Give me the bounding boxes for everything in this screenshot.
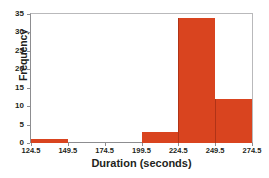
histogram-bar bbox=[178, 18, 215, 143]
y-axis-tick-label: 20 bbox=[15, 64, 24, 74]
x-axis-tick-label: 174.5 bbox=[85, 146, 125, 156]
histogram-bar bbox=[142, 132, 179, 143]
y-axis-tick-label: 35 bbox=[15, 9, 24, 19]
plot-area bbox=[31, 14, 252, 143]
x-axis-tick-label: 149.5 bbox=[48, 146, 88, 156]
y-axis-tick: 35 bbox=[0, 14, 30, 24]
y-axis-tick-mark bbox=[27, 143, 30, 144]
y-axis-tick: 15 bbox=[0, 88, 30, 98]
x-axis-tick-label: 224.5 bbox=[158, 146, 198, 156]
y-axis-tick-label: 10 bbox=[15, 101, 24, 111]
x-axis-tick-label: 249.5 bbox=[195, 146, 235, 156]
y-axis-tick-label: 30 bbox=[15, 27, 24, 37]
histogram-bar bbox=[31, 139, 68, 143]
y-axis-tick-label: 15 bbox=[15, 83, 24, 93]
x-axis-tick-label: 274.5 bbox=[232, 146, 269, 156]
x-axis-label: Duration (seconds) bbox=[30, 157, 253, 170]
y-axis-tick-label: 5 bbox=[20, 120, 24, 130]
y-axis-tick: 10 bbox=[0, 106, 30, 116]
y-axis-tick: 20 bbox=[0, 69, 30, 79]
y-axis-tick-label: 25 bbox=[15, 46, 24, 56]
y-axis-tick: 5 bbox=[0, 125, 30, 135]
x-axis-tick-label: 199.5 bbox=[122, 146, 162, 156]
histogram-bar bbox=[215, 99, 252, 143]
y-axis-tick: 30 bbox=[0, 32, 30, 42]
y-axis-tick: 25 bbox=[0, 51, 30, 61]
histogram-chart: Frequency 05101520253035 124.5149.5174.5… bbox=[0, 0, 269, 178]
x-axis-tick-label: 124.5 bbox=[11, 146, 51, 156]
